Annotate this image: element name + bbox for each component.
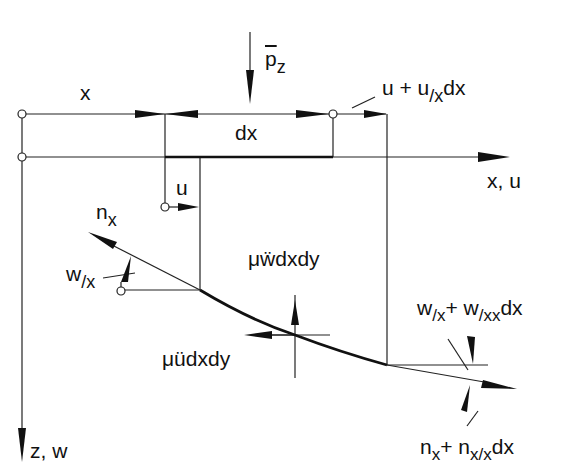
label-u-plus: u + u/xdx — [382, 77, 466, 98]
label-nx: nx — [96, 201, 117, 222]
label-wx: w/x — [66, 263, 95, 284]
diagram-canvas: x dx pz u + u/xdx x, u u nx w/x μẅdxdy μ… — [0, 0, 564, 473]
label-pz: pz — [265, 48, 286, 69]
label-x: x — [80, 82, 91, 103]
label-slope-increment: w/x+ w/xxdx — [417, 297, 523, 318]
label-udd: μüdxdy — [162, 348, 230, 369]
label-force-increment: nx+ nx/xdx — [420, 436, 514, 457]
label-wdd: μẅdxdy — [248, 248, 320, 269]
label-axis-z: z, w — [30, 440, 67, 461]
label-u: u — [176, 177, 188, 198]
label-axis-x: x, u — [487, 170, 521, 191]
label-dx: dx — [235, 122, 257, 143]
